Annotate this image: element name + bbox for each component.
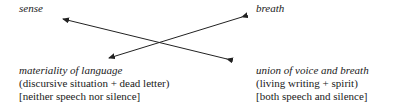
label-union: union of voice and breath: [256, 64, 369, 77]
arrow-materiality-to-breath: [109, 17, 242, 58]
label-materiality: materiality of language: [19, 64, 122, 77]
label-materiality-line2: [neither speech nor silence]: [19, 90, 140, 103]
label-materiality-line1: (discursive situation + dead letter): [19, 77, 169, 90]
label-union-line2: [both speech and silence]: [256, 90, 367, 103]
arrow-sense-to-union: [63, 19, 227, 59]
label-union-line1: (living writing + spirit): [256, 77, 358, 90]
